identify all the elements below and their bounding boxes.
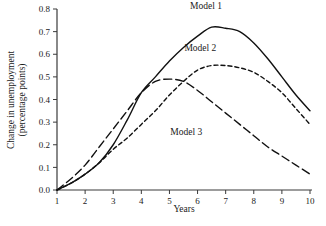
x-tick-label: 4 <box>139 196 144 206</box>
y-tick-label: 0.6 <box>39 49 51 59</box>
x-tick-label: 5 <box>167 196 172 206</box>
y-axis-title-line2: (percentage points) <box>17 63 28 136</box>
y-axis-title-group: Change in unemployment (percentage point… <box>6 51 28 150</box>
x-tick-label: 3 <box>111 196 116 206</box>
x-tick-label: 10 <box>306 196 316 206</box>
x-tick-label: 8 <box>252 196 257 206</box>
y-axis-title-line1: Change in unemployment <box>6 51 16 150</box>
y-tick-label: 0.7 <box>39 27 51 37</box>
y-tick-label: 0.5 <box>39 72 51 82</box>
x-axis-title-group: Years <box>173 204 195 214</box>
x-tick-label: 9 <box>280 196 285 206</box>
y-axis-group: 0.00.10.20.30.40.50.60.70.8 <box>39 4 57 195</box>
series-label-model-3: Model 3 <box>170 127 202 137</box>
y-tick-label: 0.4 <box>39 95 51 105</box>
chart-figure: 0.00.10.20.30.40.50.60.70.8 12345678910 … <box>0 0 326 226</box>
series-label-model-1: Model 1 <box>190 1 222 11</box>
y-tick-labels: 0.00.10.20.30.40.50.60.70.8 <box>39 4 51 195</box>
y-tick-label: 0.8 <box>39 4 51 14</box>
x-tick-label: 6 <box>195 196 200 206</box>
y-tick-label: 0.1 <box>39 163 50 173</box>
y-tick-label: 0.3 <box>39 117 51 127</box>
chart-plot: 0.00.10.20.30.40.50.60.70.8 12345678910 … <box>0 0 326 226</box>
x-tick-label: 7 <box>223 196 228 206</box>
y-tick-label: 0.0 <box>39 185 51 195</box>
series-label-model-2: Model 2 <box>184 43 216 53</box>
x-tick-label: 2 <box>83 196 88 206</box>
series-annotations: Model 1Model 2Model 3 <box>170 1 222 137</box>
x-axis-title: Years <box>173 204 195 214</box>
y-tick-label: 0.2 <box>39 140 50 150</box>
x-tick-label: 1 <box>55 196 60 206</box>
x-tick-marks <box>57 190 310 194</box>
